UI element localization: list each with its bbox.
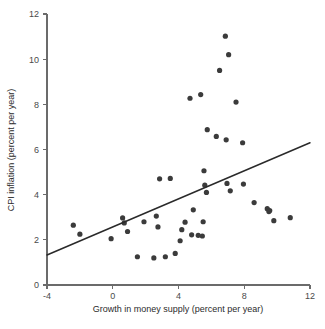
data-point: [71, 223, 76, 228]
data-point: [214, 134, 219, 139]
axes: [47, 14, 310, 285]
data-point: [151, 255, 156, 260]
y-tick-label: 6: [34, 145, 39, 155]
data-point: [182, 220, 187, 225]
data-point: [157, 176, 162, 181]
data-point: [233, 99, 238, 104]
data-points: [71, 34, 293, 261]
data-point: [179, 227, 184, 232]
x-tick-label: -4: [43, 291, 51, 301]
data-point: [252, 200, 257, 205]
data-point: [241, 181, 246, 186]
x-tick-label: 4: [176, 291, 181, 301]
data-point: [217, 68, 222, 73]
y-tick-label: 2: [34, 235, 39, 245]
y-tick-label: 12: [29, 9, 39, 19]
y-tick-label: 10: [29, 55, 39, 65]
data-point: [173, 251, 178, 256]
data-point: [200, 233, 205, 238]
trend-line: [47, 143, 310, 255]
data-point: [187, 96, 192, 101]
data-point: [155, 224, 160, 229]
data-point: [224, 137, 229, 142]
data-point: [109, 236, 114, 241]
data-point: [198, 92, 203, 97]
data-point: [178, 238, 183, 243]
data-point: [224, 181, 229, 186]
y-tick-label: 4: [34, 190, 39, 200]
data-point: [228, 188, 233, 193]
data-point: [204, 190, 209, 195]
x-axis-ticks: -404812: [43, 285, 315, 301]
x-tick-label: 12: [305, 291, 315, 301]
data-point: [205, 127, 210, 132]
data-point: [226, 52, 231, 57]
x-axis-title: Growth in money supply (percent per year…: [93, 304, 264, 314]
data-point: [288, 215, 293, 220]
y-tick-label: 8: [34, 100, 39, 110]
data-point: [189, 232, 194, 237]
y-axis-title: CPI inflation (percent per year): [6, 89, 16, 212]
data-point: [135, 254, 140, 259]
data-point: [125, 229, 130, 234]
data-point: [223, 34, 228, 39]
chart-canvas: 024681012 -404812 Growth in money supply…: [0, 0, 325, 329]
x-tick-label: 0: [110, 291, 115, 301]
data-point: [163, 254, 168, 259]
data-point: [77, 232, 82, 237]
y-axis-ticks: 024681012: [29, 9, 47, 290]
data-point: [267, 208, 272, 213]
data-point: [271, 218, 276, 223]
data-point: [201, 219, 206, 224]
x-tick-label: 8: [242, 291, 247, 301]
data-point: [240, 140, 245, 145]
data-point: [191, 207, 196, 212]
data-point: [154, 214, 159, 219]
scatter-chart: 024681012 -404812 Growth in money supply…: [0, 0, 325, 329]
data-point: [168, 176, 173, 181]
data-point: [141, 219, 146, 224]
y-tick-label: 0: [34, 280, 39, 290]
data-point: [120, 215, 125, 220]
data-point: [201, 168, 206, 173]
